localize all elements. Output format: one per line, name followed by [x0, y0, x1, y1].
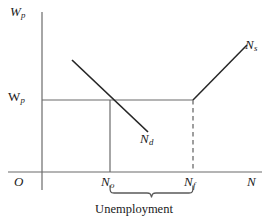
employment-actual-tick-label: No [101, 175, 114, 188]
y-axis-title-main: W [10, 4, 21, 19]
y-axis-title-sub: p [21, 10, 25, 20]
x-axis-title: N [247, 175, 256, 188]
unemployment-brace-icon [110, 186, 193, 197]
full-employment-main: N [184, 174, 193, 189]
economics-diagram: Wp Wp O N No Nf Nd Ns Unemployment [0, 0, 268, 219]
unemployment-annotation-label: Unemployment [0, 203, 268, 216]
supply-label-sub: s [254, 43, 257, 53]
employment-actual-sub: o [110, 180, 114, 190]
origin-label: O [14, 175, 23, 188]
wage-level-tick-label: Wp [8, 90, 25, 103]
diagram-canvas [0, 0, 268, 219]
labour-supply-curve-label: Ns [245, 38, 257, 51]
wage-level-sub: p [21, 95, 25, 105]
demand-label-sub: d [149, 137, 153, 147]
employment-actual-main: N [101, 174, 110, 189]
labour-supply-curve [193, 45, 247, 100]
labour-demand-curve-label: Nd [140, 132, 153, 145]
demand-label-main: N [140, 131, 149, 146]
y-axis-title: Wp [10, 5, 25, 18]
supply-label-main: N [245, 37, 254, 52]
full-employment-tick-label: Nf [184, 175, 195, 188]
wage-level-main: W [8, 89, 20, 104]
